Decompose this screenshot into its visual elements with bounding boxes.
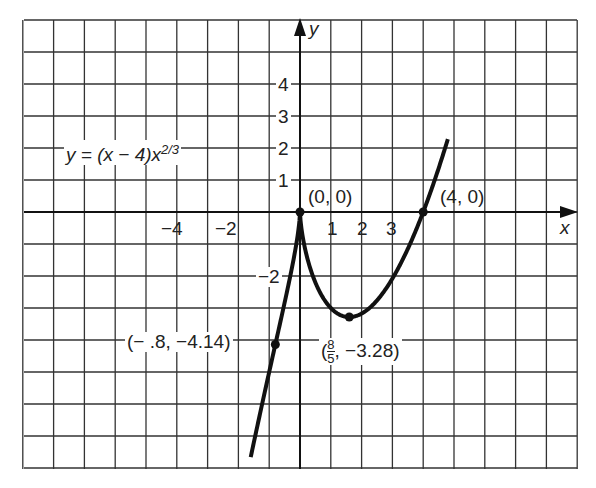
equation-text: y = (x − 4)x	[66, 144, 161, 165]
y-tick-1: 1	[276, 171, 291, 191]
x-axis-label: x	[558, 218, 572, 238]
marked-points	[271, 208, 428, 349]
x-tick-2: 2	[355, 219, 370, 239]
annotation-minimum: (85, −3.28)	[319, 338, 402, 365]
x-tick-1: 1	[325, 219, 340, 239]
fraction-8-5: 85	[327, 338, 334, 365]
annotation-inflection: (− .8, −4.14)	[125, 332, 233, 352]
y-axis-arrow-icon	[294, 18, 306, 36]
x-tick-neg2: −2	[213, 219, 239, 239]
graph-plot	[0, 0, 596, 488]
x-tick-neg4: −4	[159, 219, 185, 239]
equation-exponent: 2/3	[161, 142, 179, 157]
y-axis-label: y	[307, 19, 321, 39]
equation-label: y = (x − 4)x2/3	[64, 140, 181, 165]
y-tick-2: 2	[276, 139, 291, 159]
y-tick-4: 4	[276, 75, 291, 95]
annotation-root-4: (4, 0)	[438, 187, 486, 207]
fraction-denominator: 5	[327, 352, 334, 365]
x-tick-3: 3	[384, 219, 399, 239]
annotation-origin: (0, 0)	[306, 187, 354, 207]
fraction-numerator: 8	[327, 338, 334, 352]
y-tick-neg2: −2	[256, 267, 282, 287]
y-tick-3: 3	[276, 107, 291, 127]
annotation-min-rest: , −3.28)	[335, 340, 400, 361]
